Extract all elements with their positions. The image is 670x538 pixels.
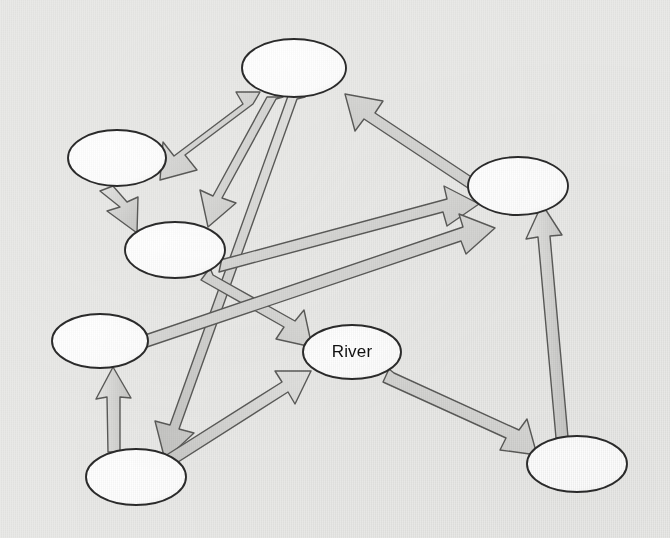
block-arrow-shape <box>100 186 138 233</box>
block-arrow-shape <box>383 369 537 455</box>
node-g[interactable] <box>527 436 627 492</box>
node-ellipse[interactable] <box>125 222 225 278</box>
block-arrow-shape <box>96 367 131 452</box>
node-e[interactable] <box>468 157 568 215</box>
edges-layer <box>96 92 568 478</box>
edge-b-to-c <box>100 186 138 233</box>
node-ellipse[interactable] <box>86 449 186 505</box>
node-ellipse[interactable] <box>242 39 346 97</box>
node-ellipse[interactable] <box>52 314 148 368</box>
diagram-canvas: River <box>0 0 670 538</box>
edge-f-to-d <box>96 367 131 452</box>
node-d[interactable] <box>52 314 148 368</box>
edge-e-to-a <box>345 94 487 188</box>
node-ellipse[interactable] <box>527 436 627 492</box>
block-arrow-shape <box>526 204 568 438</box>
edge-river-to-g <box>383 369 537 455</box>
node-river-label: River <box>332 342 373 361</box>
edge-g-to-e <box>526 204 568 438</box>
node-river[interactable]: River <box>303 325 401 379</box>
node-ellipse[interactable] <box>468 157 568 215</box>
concept-map-svg: River <box>0 0 670 538</box>
node-f[interactable] <box>86 449 186 505</box>
node-a[interactable] <box>242 39 346 97</box>
node-ellipse[interactable] <box>68 130 166 186</box>
block-arrow-shape <box>345 94 487 188</box>
node-c[interactable] <box>125 222 225 278</box>
node-b[interactable] <box>68 130 166 186</box>
